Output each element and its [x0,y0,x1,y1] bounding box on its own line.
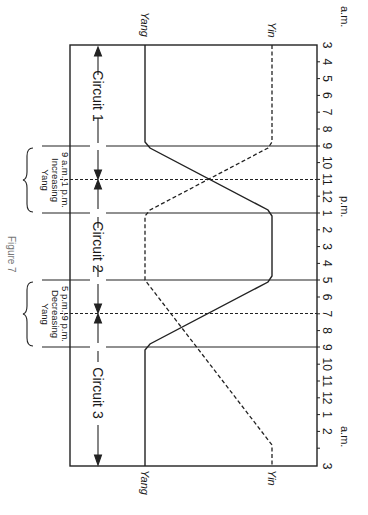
am-end-label: a.m. [339,426,351,447]
svg-text:4: 4 [320,260,334,267]
svg-text:6: 6 [320,92,334,99]
brace-icon [23,282,33,346]
circuit-1-label: Circuit 1 [90,70,106,122]
yin-top-label: Yin [266,22,278,38]
svg-text:3: 3 [320,42,334,49]
pm-label: p.m. [339,196,351,217]
am-start-label: a.m. [339,6,351,27]
yang-top-label: Yang [139,12,151,38]
boundary-lines [42,146,320,347]
tick-labels: 3 4 5 6 7 8 9 10 11 12 1 2 3 4 5 6 7 8 9… [320,42,334,470]
svg-text:2: 2 [320,428,334,435]
svg-text:Yang: Yang [40,303,51,324]
svg-text:6: 6 [320,294,334,301]
svg-text:10: 10 [320,156,334,170]
svg-text:1: 1 [320,411,334,418]
circuit-2-label: Circuit 2 [90,221,106,273]
svg-text:9: 9 [320,142,334,149]
svg-text:5: 5 [320,277,334,284]
increasing-yang-box: 9 a.m.-1 p.m. Increasing Yang [23,146,71,213]
yin-bottom-label: Yin [266,470,278,486]
circuit-3-label: Circuit 3 [90,367,106,419]
svg-text:7: 7 [320,310,334,317]
yang-line [145,45,272,466]
svg-text:8: 8 [320,327,334,334]
svg-text:10: 10 [320,358,334,372]
yin-line [145,45,272,466]
svg-text:8: 8 [320,126,334,133]
svg-text:11: 11 [320,375,334,388]
svg-text:Yang: Yang [40,169,51,190]
decreasing-yang-box: 5 p.m.-9 p.m. Decreasing Yang [23,282,71,346]
svg-text:1: 1 [320,210,334,217]
yang-bottom-label: Yang [139,470,151,496]
svg-text:12: 12 [320,391,334,405]
svg-text:5: 5 [320,75,334,82]
brace-icon [23,148,33,212]
svg-text:3: 3 [320,243,334,250]
figure-caption: Figure 7 [6,236,17,273]
svg-text:9: 9 [320,344,334,351]
svg-text:4: 4 [320,58,334,65]
yin-yang-circuit-diagram: Circuit 1 Circuit 2 Circuit 3 9 a.m.-1 p… [0,0,368,515]
svg-text:7: 7 [320,109,334,116]
svg-text:3: 3 [320,463,334,470]
diagram-frame [70,45,317,466]
svg-text:2: 2 [320,226,334,233]
svg-text:12: 12 [320,190,334,204]
svg-text:11: 11 [320,173,334,186]
